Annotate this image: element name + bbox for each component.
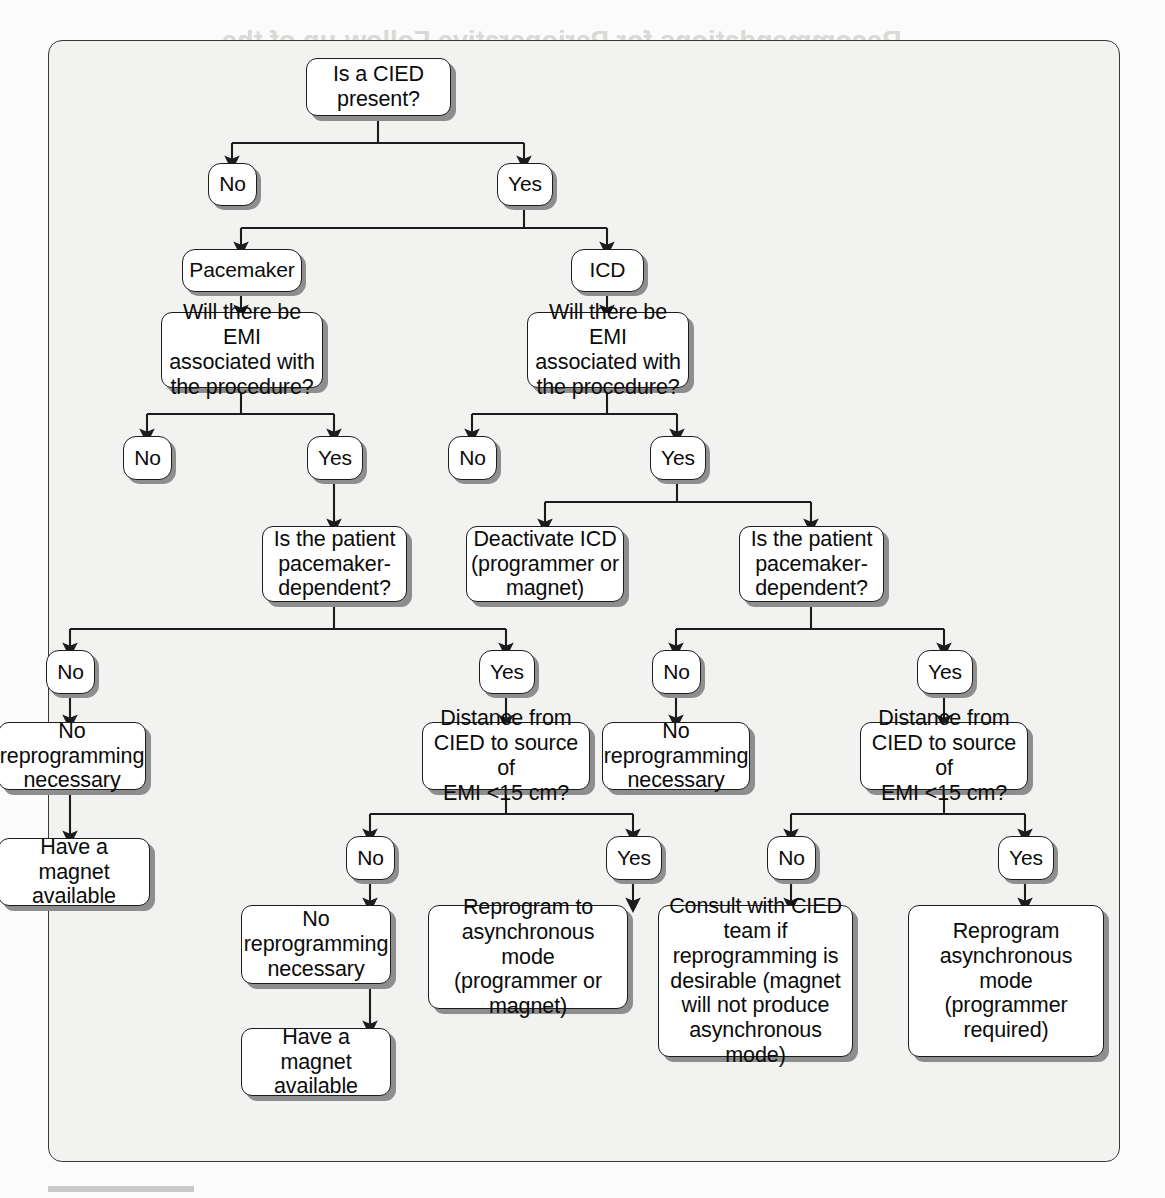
node-pacemaker-have-magnet-2[interactable]: Have a magnet available bbox=[241, 1028, 391, 1096]
node-icd-distance-question[interactable]: Distance from CIED to source of EMI <15 … bbox=[860, 722, 1028, 790]
node-icd-distance-no[interactable]: No bbox=[767, 836, 816, 880]
node-pacemaker-distance-yes[interactable]: Yes bbox=[606, 836, 662, 880]
node-pacemaker-emi-question[interactable]: Will there be EMI associated with the pr… bbox=[161, 312, 323, 388]
node-pacemaker-distance-no[interactable]: No bbox=[346, 836, 395, 880]
node-pacemaker-reprogram-async[interactable]: Reprogram to asynchronous mode (programm… bbox=[428, 905, 628, 1009]
node-icd-distance-yes[interactable]: Yes bbox=[998, 836, 1054, 880]
node-pacemaker-have-magnet-1[interactable]: Have a magnet available bbox=[0, 838, 150, 906]
node-icd-consult-team[interactable]: Consult with CIED team if reprogramming … bbox=[658, 905, 853, 1057]
page-background: Recommendations for Perioperative Follow… bbox=[0, 0, 1165, 1198]
node-pacemaker[interactable]: Pacemaker bbox=[182, 249, 302, 292]
node-root-no[interactable]: No bbox=[208, 163, 257, 206]
node-pacemaker-dependent-no[interactable]: No bbox=[46, 650, 95, 694]
node-icd-emi-yes[interactable]: Yes bbox=[650, 436, 706, 480]
node-icd-dependent-yes[interactable]: Yes bbox=[917, 650, 973, 694]
node-pacemaker-dependent-yes[interactable]: Yes bbox=[479, 650, 535, 694]
node-icd-emi-question[interactable]: Will there be EMI associated with the pr… bbox=[527, 312, 689, 388]
node-pacemaker-no-reprogramming-2[interactable]: No reprogramming necessary bbox=[241, 905, 391, 984]
node-pacemaker-distance-question[interactable]: Distance from CIED to source of EMI <15 … bbox=[422, 722, 590, 790]
node-icd-reprogram-async[interactable]: Reprogram asynchronous mode (programmer … bbox=[908, 905, 1104, 1057]
bottom-rule bbox=[48, 1186, 194, 1192]
node-icd[interactable]: ICD bbox=[571, 249, 644, 292]
node-pacemaker-emi-no[interactable]: No bbox=[123, 436, 172, 480]
node-icd-no-reprogramming[interactable]: No reprogramming necessary bbox=[602, 722, 750, 790]
node-icd-dependent-no[interactable]: No bbox=[652, 650, 701, 694]
node-icd-dependent-question[interactable]: Is the patient pacemaker- dependent? bbox=[739, 526, 884, 602]
node-pacemaker-no-reprogramming[interactable]: No reprogramming necessary bbox=[0, 722, 146, 790]
node-icd-emi-no[interactable]: No bbox=[448, 436, 497, 480]
node-deactivate-icd[interactable]: Deactivate ICD (programmer or magnet) bbox=[466, 526, 624, 602]
node-pacemaker-emi-yes[interactable]: Yes bbox=[307, 436, 363, 480]
node-root-question[interactable]: Is a CIED present? bbox=[306, 58, 451, 116]
node-pacemaker-dependent-question[interactable]: Is the patient pacemaker- dependent? bbox=[262, 526, 407, 602]
node-root-yes[interactable]: Yes bbox=[497, 163, 553, 206]
